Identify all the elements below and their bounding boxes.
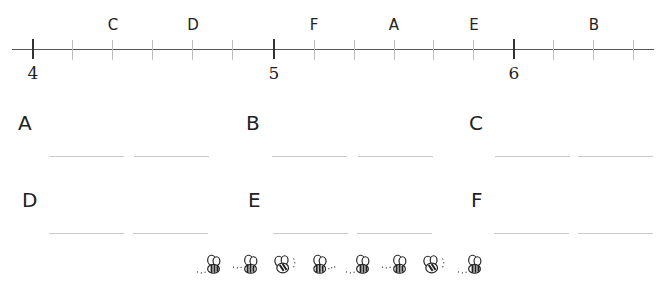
bee-icon (381, 253, 410, 277)
answer-label-a: A (18, 111, 32, 135)
answer-label-c: C (469, 111, 483, 135)
answer-label-d: D (22, 188, 37, 212)
answer-blank-c-1[interactable] (495, 156, 570, 157)
bee-decoration-row (195, 252, 485, 278)
bee-icon (307, 253, 336, 277)
bee-icon (419, 253, 448, 277)
bee-icon (344, 253, 373, 277)
bee-icon (456, 253, 485, 277)
answer-label-b: B (246, 111, 260, 135)
answer-blank-d-2[interactable] (133, 233, 208, 234)
answer-blank-e-1[interactable] (273, 233, 348, 234)
answer-blank-b-2[interactable] (358, 156, 433, 157)
answer-label-e: E (248, 188, 261, 212)
answer-blank-e-2[interactable] (357, 233, 432, 234)
answer-blank-b-1[interactable] (272, 156, 347, 157)
answer-section: A B C D E F (0, 0, 670, 286)
answer-blank-a-1[interactable] (49, 156, 124, 157)
bee-icon (195, 253, 224, 277)
bee-icon (232, 253, 261, 277)
answer-blank-d-1[interactable] (49, 233, 124, 234)
answer-blank-f-1[interactable] (494, 233, 569, 234)
answer-blank-f-2[interactable] (578, 233, 653, 234)
answer-blank-c-2[interactable] (578, 156, 653, 157)
answer-label-f: F (471, 188, 483, 212)
answer-blank-a-2[interactable] (134, 156, 209, 157)
bee-icon (270, 253, 299, 277)
